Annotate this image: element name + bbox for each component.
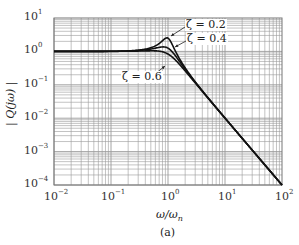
y-tick-10e-4: 10−4: [24, 177, 48, 190]
y-tick-10e-1: 10−1: [24, 77, 48, 90]
x-tick-10e-1: 10−1: [101, 190, 125, 203]
y-axis-label: | Q(jω) |: [4, 82, 17, 126]
x-tick-10e-2: 10−2: [44, 190, 68, 203]
annotation-zeta-0-4: ζ = 0.4: [186, 33, 228, 45]
annotation-zeta-0-6: ζ = 0.6: [121, 71, 163, 83]
annotation-zeta-0-2: ζ = 0.2: [185, 19, 227, 31]
y-tick-10e1: 101: [24, 10, 42, 23]
x-tick-10e2: 102: [275, 190, 293, 203]
figure-caption: (a): [160, 226, 175, 239]
y-tick-10e-2: 10−2: [24, 110, 48, 123]
x-axis-label: ω/ωn: [156, 208, 183, 223]
y-tick-10e-3: 10−3: [24, 144, 48, 157]
y-tick-10e0: 100: [24, 43, 42, 56]
x-tick-10e1: 101: [218, 190, 236, 203]
x-tick-10e0: 100: [161, 190, 179, 203]
